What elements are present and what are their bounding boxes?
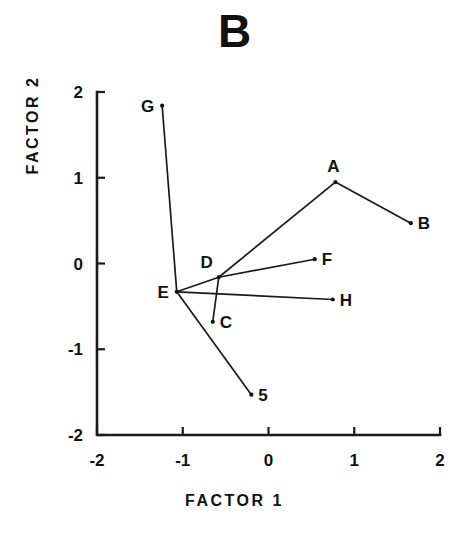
edge-line [177,277,219,292]
data-point-label: H [340,291,352,310]
data-point-label: D [200,253,212,272]
y-tick-label: 1 [74,169,83,188]
data-point-marker[interactable] [313,257,317,261]
x-tick-label: 1 [350,451,359,470]
data-point-label: E [157,283,168,302]
x-tick-label: -2 [89,451,104,470]
data-points: ABCDEFGH5 [141,97,430,405]
edge-line [219,182,336,277]
y-tick-label: 0 [74,255,83,274]
x-tick-label: 0 [264,451,273,470]
data-point-label: B [418,214,430,233]
edge-line [213,277,219,322]
y-tick-label: -1 [68,340,83,359]
axis-lines [97,92,440,435]
x-axis-ticks: -2-1012 [89,427,444,470]
data-point-label: 5 [258,386,267,405]
scatter-plot: -2-1012 -2-1012 ABCDEFGH5 [0,0,469,542]
data-point-marker[interactable] [331,297,335,301]
x-axis-label: FACTOR 1 [0,492,469,510]
y-axis-ticks: -2-1012 [68,83,105,445]
data-point-label: F [322,250,332,269]
edge-line [335,182,410,223]
data-point-marker[interactable] [211,320,215,324]
data-point-marker[interactable] [409,221,413,225]
edge-line [219,259,315,277]
y-tick-label: 2 [74,83,83,102]
figure-panel: B FACTOR 2 -2-1012 -2-1012 ABCDEFGH5 FAC… [0,0,469,542]
y-tick-label: -2 [68,426,83,445]
data-point-label: A [327,157,339,176]
data-point-label: C [220,313,232,332]
data-point-marker[interactable] [217,275,221,279]
data-point-marker[interactable] [249,393,253,397]
x-tick-label: -1 [175,451,190,470]
data-point-marker[interactable] [333,180,337,184]
data-point-marker[interactable] [175,290,179,294]
edge-lines [162,106,411,395]
plot-axes: -2-1012 -2-1012 [68,83,445,470]
data-point-marker[interactable] [160,104,164,108]
x-tick-label: 2 [435,451,444,470]
edge-line [177,292,333,300]
edge-line [162,106,177,292]
data-point-label: G [141,97,154,116]
